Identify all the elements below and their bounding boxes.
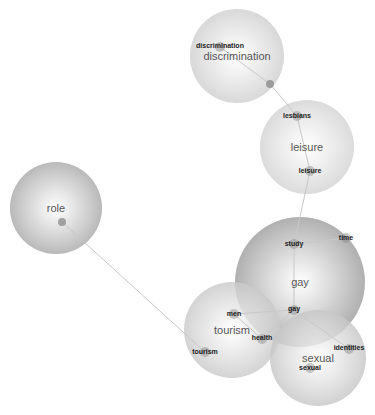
cluster-label-discrimination: discrimination: [203, 50, 270, 62]
node-label: study: [285, 240, 304, 248]
edge: [62, 222, 205, 352]
node-label: lesbians: [283, 112, 311, 119]
node-dot: [266, 80, 274, 88]
node-label: time: [339, 234, 354, 241]
node-role[interactable]: [58, 218, 66, 226]
node-label: identities: [334, 344, 365, 351]
cluster-label-tourism: tourism: [214, 324, 250, 336]
node-label: tourism: [192, 348, 218, 355]
node-dot: [58, 218, 66, 226]
cluster-label-gay: gay: [291, 276, 309, 288]
node-disc-dot[interactable]: [266, 80, 274, 88]
cluster-label-sexual: sexual: [302, 352, 334, 364]
cluster-network-diagram: discriminationlesbiansleisurestudytimega…: [0, 0, 375, 415]
cluster-label-leisure: leisure: [291, 141, 323, 153]
node-label: discrimination: [196, 42, 244, 49]
node-label: men: [227, 310, 241, 317]
cluster-label-role: role: [47, 202, 65, 214]
node-label: gay: [288, 305, 300, 313]
node-label: health: [252, 334, 273, 341]
node-label: leisure: [299, 167, 322, 174]
node-label: sexual: [299, 364, 321, 371]
